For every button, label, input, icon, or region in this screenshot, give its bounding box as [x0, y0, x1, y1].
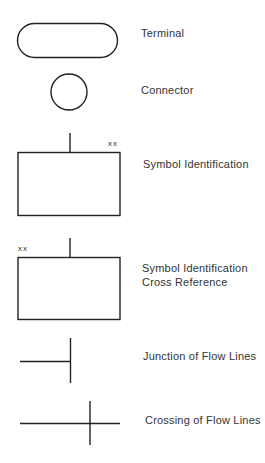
symbol-identification-label: Symbol Identification — [143, 158, 249, 171]
cross-reference-label-line1: Symbol Identification — [142, 262, 248, 275]
connector-label: Connector — [141, 84, 194, 97]
junction-of-flow-lines-label: Junction of Flow Lines — [143, 350, 256, 363]
terminal-shape — [18, 24, 118, 58]
cross-reference-label-line2: Cross Reference — [142, 276, 228, 289]
symbol-identification-shape — [18, 133, 120, 216]
flowchart-symbols-diagram — [0, 0, 265, 463]
symbol-identification-marker: xx — [108, 139, 118, 148]
symbol-identification-cross-reference-shape — [18, 238, 120, 320]
connector-shape — [51, 74, 87, 110]
terminal-label: Terminal — [141, 27, 184, 40]
cross-reference-marker: xx — [18, 244, 28, 253]
crossing-of-flow-lines-label: Crossing of Flow Lines — [145, 414, 261, 427]
crossing-of-flow-lines-shape — [20, 401, 120, 445]
junction-of-flow-lines-shape — [20, 338, 71, 383]
